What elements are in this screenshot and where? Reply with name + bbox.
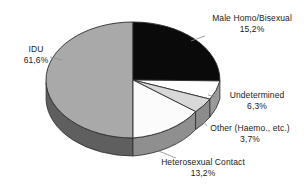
- slice-label-idu-value: 61,6%: [8, 55, 64, 66]
- slice-label-idu: IDU 61,6%: [8, 44, 64, 65]
- slice-label-other-haemo: Other (Haemo., etc.) 3,7%: [196, 123, 304, 144]
- slice-label-male-name: Male Homo/Bisexual: [212, 13, 292, 23]
- slice-label-undetermined: Undetermined 6,3%: [212, 90, 302, 111]
- slice-label-male-value: 15,2%: [200, 24, 304, 35]
- slice-label-undetermined-name: Undetermined: [230, 90, 285, 100]
- slice-label-other-value: 3,7%: [196, 134, 304, 145]
- slice-label-other-name: Other (Haemo., etc.): [210, 123, 289, 133]
- slice-label-heterosexual-contact: Heterosexual Contact 13,2%: [138, 157, 268, 178]
- slice-label-idu-name: IDU: [29, 44, 44, 54]
- pie-chart: IDU 61,6% Male Homo/Bisexual 15,2% Undet…: [0, 0, 307, 189]
- slice-label-hetero-value: 13,2%: [138, 168, 268, 179]
- slice-label-male-homo-bisexual: Male Homo/Bisexual 15,2%: [200, 13, 304, 34]
- slice-label-undetermined-value: 6,3%: [212, 101, 302, 112]
- slice-label-hetero-name: Heterosexual Contact: [161, 157, 245, 167]
